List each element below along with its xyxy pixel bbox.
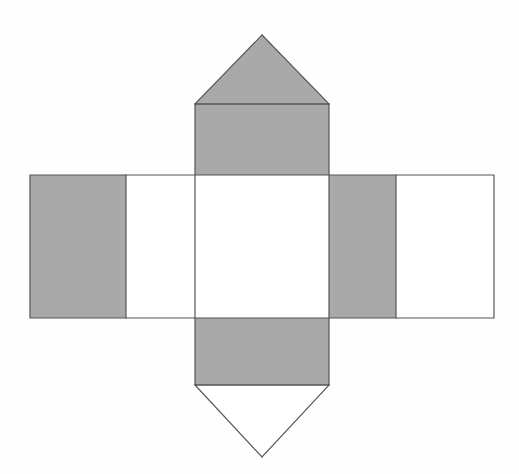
center-square xyxy=(195,175,329,318)
lower-column-rectangle xyxy=(195,318,329,385)
prism-net-figure xyxy=(0,0,519,474)
right-inner-rectangle-shaded xyxy=(329,175,396,318)
diagram-canvas xyxy=(0,0,519,474)
left-outer-rectangle-unshaded xyxy=(126,175,195,318)
right-outer-rectangle-unshaded xyxy=(396,175,494,318)
left-outer-rectangle-shaded xyxy=(30,175,126,318)
upper-column-rectangle xyxy=(195,104,329,175)
